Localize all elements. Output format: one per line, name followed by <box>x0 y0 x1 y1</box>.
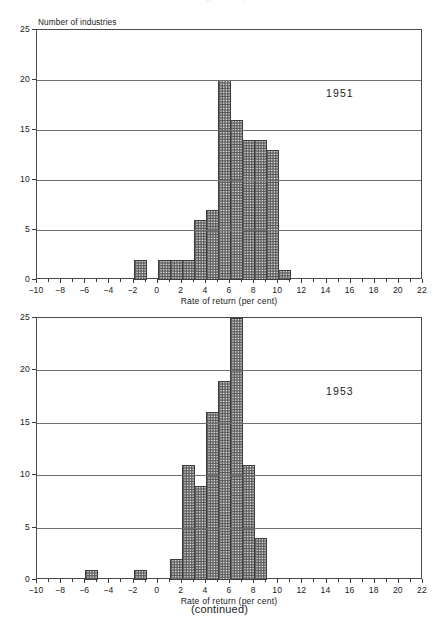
y-tick-mark-20 <box>32 369 36 370</box>
x-tick-mark-6 <box>229 579 230 583</box>
gridline-y-15 <box>37 423 421 424</box>
y-tick-label-10: 10 <box>10 469 30 479</box>
x-tick-mark-10 <box>277 579 278 583</box>
x-tick-mark--7 <box>72 579 73 582</box>
y-tick-label-20: 20 <box>10 364 30 374</box>
y-tick-label-15: 15 <box>10 417 30 427</box>
x-tick-mark-18 <box>374 579 375 583</box>
x-tick-mark-17 <box>362 579 363 582</box>
y-tick-label-25: 25 <box>10 312 30 322</box>
x-tick-mark--4 <box>108 579 109 583</box>
x-tick-mark-0 <box>157 579 158 583</box>
y-tick-label-0: 0 <box>10 574 30 584</box>
x-tick-mark--10 <box>36 579 37 583</box>
x-tick-mark-16 <box>350 579 351 583</box>
x-tick-mark-13 <box>313 579 314 582</box>
x-tick-mark-11 <box>289 579 290 582</box>
x-tick-mark-4 <box>205 579 206 583</box>
bars-1953 <box>37 318 421 578</box>
histogram-1953: 1953 Rate of return (per cent) 051015202… <box>0 0 439 625</box>
x-tick-mark-15 <box>338 579 339 582</box>
x-tick-mark--3 <box>120 579 121 582</box>
figure-page: Rate of return (per cent) Number of indu… <box>0 0 439 625</box>
x-tick-mark--1 <box>145 579 146 582</box>
x-tick-mark--9 <box>48 579 49 582</box>
x-tick-mark-9 <box>265 579 266 582</box>
x-tick-mark-1 <box>169 579 170 582</box>
x-tick-mark-21 <box>410 579 411 582</box>
x-tick-mark-5 <box>217 579 218 582</box>
gridline-y-5 <box>37 528 421 529</box>
x-tick-mark--5 <box>96 579 97 582</box>
x-tick-mark--8 <box>60 579 61 583</box>
y-tick-mark-10 <box>32 474 36 475</box>
x-tick-mark-7 <box>241 579 242 582</box>
bar <box>254 538 267 580</box>
x-tick-mark-2 <box>181 579 182 583</box>
x-tick-mark-3 <box>193 579 194 582</box>
gridline-y-20 <box>37 370 421 371</box>
series-annotation-1953: 1953 <box>326 385 354 397</box>
x-tick-mark--6 <box>84 579 85 583</box>
x-tick-mark-8 <box>253 579 254 583</box>
x-tick-label-22: 22 <box>407 585 437 595</box>
x-tick-mark--2 <box>133 579 134 583</box>
x-tick-mark-22 <box>422 579 423 583</box>
x-tick-mark-14 <box>326 579 327 583</box>
y-tick-mark-5 <box>32 527 36 528</box>
x-tick-mark-12 <box>301 579 302 583</box>
plot-area-1953 <box>36 317 422 579</box>
x-tick-mark-20 <box>398 579 399 583</box>
x-tick-mark-19 <box>386 579 387 582</box>
y-tick-mark-15 <box>32 422 36 423</box>
y-tick-label-5: 5 <box>10 522 30 532</box>
y-tick-mark-25 <box>32 317 36 318</box>
gridline-y-10 <box>37 475 421 476</box>
continued-footnote: (continued) <box>0 603 439 615</box>
